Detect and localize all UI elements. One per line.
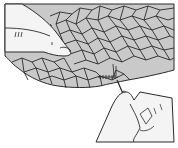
patchwork-stitching-illustration [0, 0, 178, 148]
